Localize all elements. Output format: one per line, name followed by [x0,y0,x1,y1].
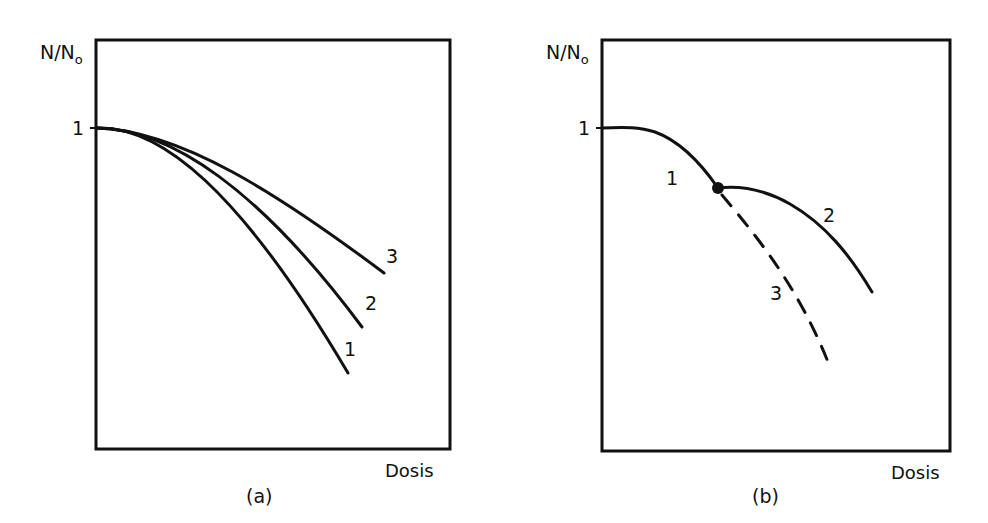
panel-a-curve-label-3: 3 [386,245,398,267]
panel-a-curve-label-1: 1 [344,338,356,360]
panel-a-y-tick-label: 1 [72,117,84,139]
panel-a-x-axis-label: Dosis [385,460,434,481]
panel-b-y-axis-label: N/No [546,41,589,67]
panel-b-label: (b) [752,485,779,507]
panel-b-curve-label-1: 1 [666,167,678,189]
figure: N/No 1 1 2 3 Dosis (a) N/No 1 1 [0,0,988,523]
panel-b-curve-2 [718,187,872,292]
panel-a-curve-3 [96,128,384,273]
panel-b-curve-label-2: 2 [823,204,835,226]
panel-a-label: (a) [246,485,272,507]
panel-b-frame [602,40,950,451]
panel-a-curve-1 [96,128,348,373]
panel-b-curve-label-3: 3 [770,282,782,304]
panel-b-y-tick-label: 1 [578,117,590,139]
panel-a-y-axis-label: N/No [40,41,83,67]
panel-b-x-axis-label: Dosis [891,462,940,483]
panel-a: N/No 1 1 2 3 Dosis (a) [40,40,450,507]
panel-a-curve-label-2: 2 [365,292,377,314]
panel-b: N/No 1 1 2 3 Dosis (b) [546,40,950,507]
panel-b-curve-1 [602,127,718,188]
panel-b-junction-point [712,182,724,194]
